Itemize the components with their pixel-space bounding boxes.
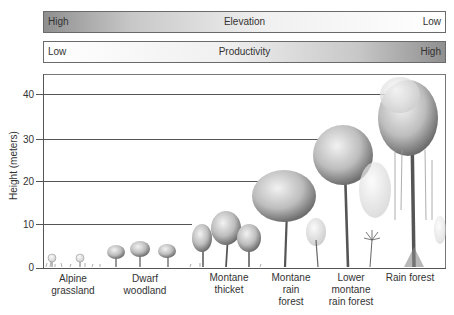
montane-rainforest-tree-icon [252,170,326,267]
alpine-shrub-icon [48,254,84,267]
category-label-dwarf-woodland: Dwarf woodland [110,273,180,297]
category-line: Alpine [38,273,108,285]
category-line: thicket [194,284,264,296]
rainforest-tree-icon [378,77,446,267]
lower-montane-tree-icon [313,125,391,267]
thicket-tree-icon [192,211,261,267]
category-line: rain forest [316,296,386,308]
category-line: Dwarf [110,273,180,285]
grass-icon [46,261,261,267]
category-label-montane-thicket: Montane thicket [194,272,264,296]
forest-illustration [0,0,454,315]
category-label-rain-forest: Rain forest [375,272,445,284]
category-label-alpine-grassland: Alpine grassland [38,273,108,297]
category-line: montane [316,284,386,296]
dwarf-tree-icon [107,241,176,267]
category-line: woodland [110,285,180,297]
category-line: grassland [38,285,108,297]
category-line: Montane [194,272,264,284]
category-line: Rain forest [375,272,445,284]
